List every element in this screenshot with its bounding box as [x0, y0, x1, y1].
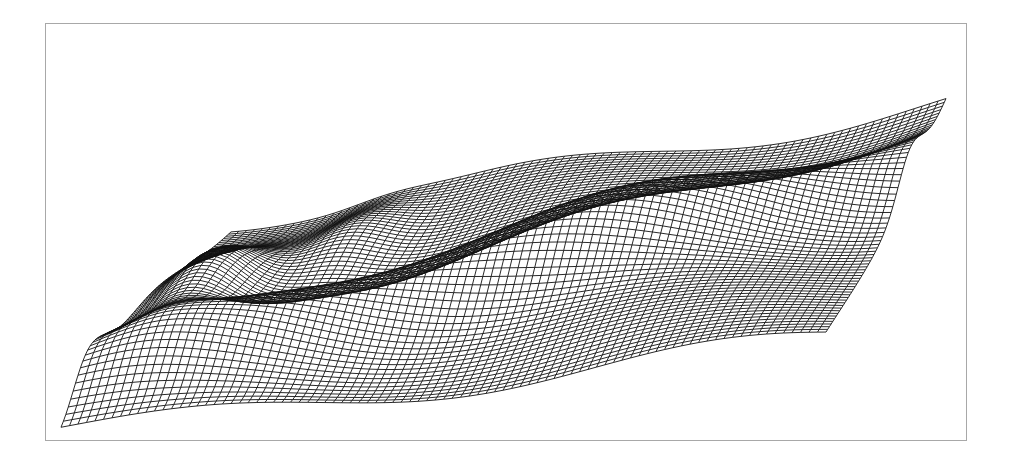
wireframe-surface-plot	[46, 24, 968, 442]
surface-plot-frame	[45, 23, 967, 441]
